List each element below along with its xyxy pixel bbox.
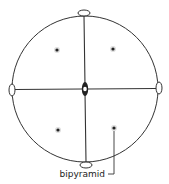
label-leader-line [108,131,114,174]
pole-lower-right [111,125,117,131]
pole-upper-left [54,47,60,53]
center-axis-hole [83,87,87,91]
bipyramid-label: bipyramid [60,169,105,179]
right-axis-symbol [156,82,162,94]
pole-lower-left [55,127,61,133]
left-axis-symbol [9,84,15,96]
top-axis-symbol [78,10,90,16]
pole-upper-right [110,46,116,52]
bottom-axis-symbol [80,162,92,168]
stereogram: bipyramid [0,0,169,184]
